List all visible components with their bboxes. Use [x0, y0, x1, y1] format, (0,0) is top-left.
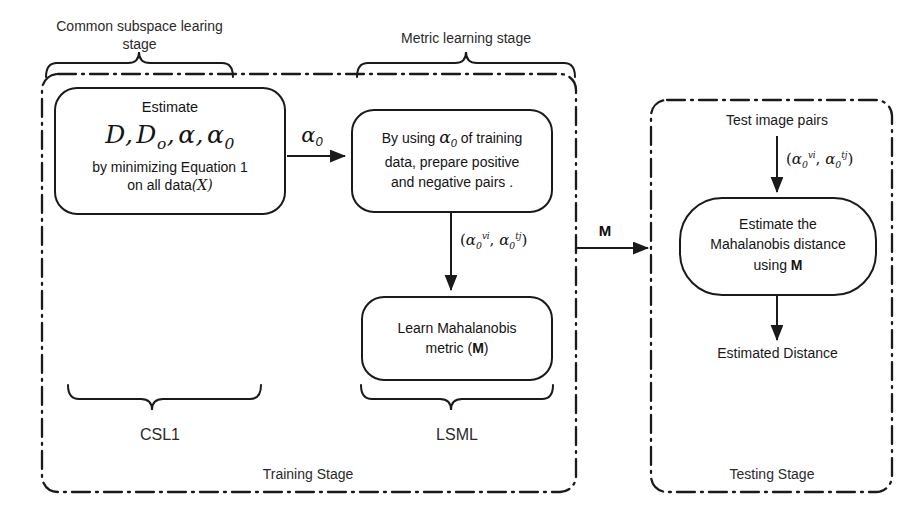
pair-close: ): [521, 231, 527, 249]
box-learn-line2c: ): [484, 340, 489, 356]
box-learn-line1: Learn Mahalanobis: [364, 318, 550, 338]
box-learn-metric-text: Learn Mahalanobis metric (M): [364, 318, 550, 359]
edge-label-test-pairs: (α0vi, α0tj): [786, 150, 906, 171]
box-estdist-line3a: using: [753, 257, 790, 273]
brace-label-metric-learning: Metric learning stage: [356, 30, 576, 48]
formula-Do: D: [136, 120, 157, 149]
box-prepare-alpha: α: [439, 127, 450, 147]
brace-lsml: [361, 385, 553, 410]
brace-label-line2: stage: [22, 36, 257, 54]
box-estdist-line3-M: M: [791, 257, 803, 273]
box-estimate-text: Estimate D, Do, α, α0 by minimizing Equa…: [57, 98, 283, 194]
box-estimate-distance-text: Estimate the Mahalanobis distance using …: [682, 214, 874, 275]
edge-label-M: M: [590, 222, 620, 241]
testing-stage-label: Testing Stage: [682, 466, 862, 484]
box-learn-line2: metric (M): [364, 338, 550, 358]
edge-alpha-sub: 0: [315, 134, 322, 149]
brace-csl1: [68, 385, 261, 410]
box-prepare-line1: By using α0 of training: [354, 125, 550, 152]
box-estimate-line4b: (X): [192, 177, 213, 193]
edge-label-alpha0: α0: [288, 122, 336, 150]
pair-comma: ,: [490, 231, 500, 249]
pair-a1-sub: 0: [476, 240, 482, 251]
brace-label-line1: Common subspace learing: [22, 18, 257, 36]
box-prepare-line1b: of training: [457, 130, 522, 146]
pair-a1: α: [792, 150, 802, 168]
formula-Do-sub: o: [157, 135, 167, 153]
box-prepare-pairs-text: By using α0 of training data, prepare po…: [354, 125, 550, 192]
edge-alpha-glyph: α: [301, 123, 315, 147]
pair-a1: α: [466, 231, 476, 249]
box-learn-line2a: metric (: [425, 340, 472, 356]
box-estimate-line4a: on all data: [127, 177, 192, 193]
box-estimate-line4: on all data(X): [57, 176, 283, 194]
brace-label-text: LSML: [357, 425, 557, 445]
box-prepare-line3: and negative pairs .: [354, 172, 550, 192]
pair-a2: α: [825, 150, 835, 168]
formula-D: D: [105, 120, 125, 149]
test-image-pairs-label: Test image pairs: [697, 112, 857, 130]
estimated-distance-label: Estimated Distance: [690, 345, 865, 363]
box-estimate-formula: D, Do, α, α0: [57, 119, 283, 154]
pair-a1-sup: vi: [482, 231, 490, 241]
box-learn-line2-M: M: [472, 340, 484, 356]
pair-a2-sub: 0: [835, 159, 841, 170]
pair-a1-sup: vi: [808, 150, 816, 160]
box-estdist-line3: using M: [682, 255, 874, 275]
box-estimate-line1: Estimate: [57, 98, 283, 117]
box-prepare-line1a: By using: [382, 130, 440, 146]
brace-label-lsml: LSML: [357, 425, 557, 445]
brace-label-text: CSL1: [60, 425, 260, 445]
formula-alpha0: α: [207, 120, 224, 149]
box-estimate-line3: by minimizing Equation 1: [57, 158, 283, 176]
pair-comma: ,: [816, 150, 826, 168]
brace-label-csl1: CSL1: [60, 425, 260, 445]
pair-close: ): [847, 150, 853, 168]
box-prepare-line2: data, prepare positive: [354, 152, 550, 172]
box-estdist-line1: Estimate the: [682, 214, 874, 234]
formula-alpha0-sub: 0: [224, 135, 234, 153]
box-estdist-line2: Mahalanobis distance: [682, 234, 874, 254]
brace-label-line1: Metric learning stage: [356, 30, 576, 48]
brace-label-common-subspace: Common subspace learing stage: [22, 18, 257, 53]
pair-a2: α: [499, 231, 509, 249]
pair-a1-sub: 0: [802, 159, 808, 170]
pair-a2-sub: 0: [509, 240, 515, 251]
formula-alpha: α: [178, 120, 195, 149]
training-stage-label: Training Stage: [218, 466, 398, 484]
edge-label-pairs-train: (α0vi, α0tj): [460, 231, 580, 252]
